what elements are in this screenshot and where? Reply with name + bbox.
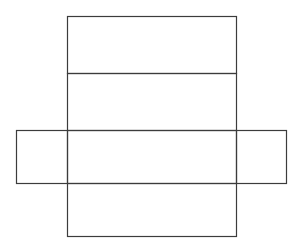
prism-net-diagram <box>0 0 302 250</box>
front-face <box>68 184 237 237</box>
back-face <box>68 74 237 131</box>
top-face <box>68 17 237 74</box>
left-face <box>17 131 68 184</box>
right-face <box>237 131 287 184</box>
bottom-face <box>68 131 237 184</box>
